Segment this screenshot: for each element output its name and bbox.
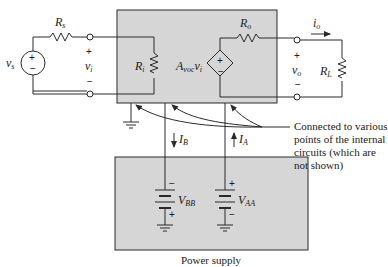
source-resistor-rs: [50, 33, 72, 41]
annotation-line-2: points of the internal: [294, 133, 385, 145]
dep-minus: −: [218, 66, 224, 77]
dep-plus: +: [217, 55, 223, 66]
output-terminal-bottom: [294, 94, 300, 100]
vs-label: vs: [6, 56, 14, 71]
power-supply-box: [115, 157, 308, 250]
vi-label: vi: [85, 59, 93, 74]
annotation-line-1: Connected to various: [294, 120, 387, 132]
vi-minus: −: [87, 76, 93, 87]
source-plus: +: [29, 52, 35, 63]
annotation-arrow-ib: [172, 105, 262, 127]
io-label: io: [313, 16, 320, 31]
load-resistor-rl: [338, 58, 346, 78]
vo-plus: +: [294, 50, 300, 61]
rs-label: Rs: [54, 15, 65, 30]
vo-minus: −: [295, 79, 301, 90]
amplifier-circuit-diagram: + − vs Rs + vi − Ri Avocvi + − Ro io + v…: [0, 0, 388, 267]
amplifier-box: [117, 10, 277, 103]
ia-label: IA: [238, 132, 248, 147]
vo-label: vo: [292, 63, 301, 78]
vbb-minus: −: [169, 178, 175, 189]
source-minus: −: [30, 63, 36, 74]
vaa-minus: −: [229, 209, 235, 220]
vaa-plus: +: [229, 178, 235, 189]
output-terminal-top: [294, 37, 300, 43]
source-bottom-wire: [33, 75, 87, 91]
annotation-line-4: not shown): [294, 159, 344, 172]
source-top-wire: [33, 37, 50, 51]
power-supply-label: Power supply: [181, 254, 242, 266]
input-terminal-top: [87, 34, 93, 40]
ib-label: IB: [178, 132, 188, 147]
vbb-plus: +: [169, 209, 175, 220]
vi-plus: +: [86, 46, 92, 57]
annotation-line-3: circuits (which are: [294, 146, 376, 159]
rl-label: RL: [319, 64, 332, 79]
annotation-arrow-ia: [231, 105, 262, 127]
input-terminal-bottom: [87, 91, 93, 97]
